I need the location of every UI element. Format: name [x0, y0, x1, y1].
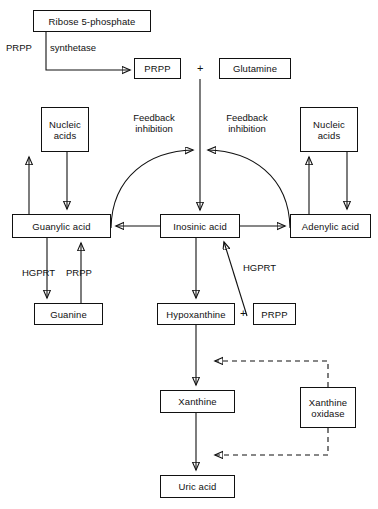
- label-feedback-inhibition-right: Feedback inhibition: [207, 112, 287, 134]
- node-inosinic-acid: Inosinic acid: [160, 214, 240, 238]
- label-hgprt-left: HGPRT: [22, 267, 55, 278]
- plus-sign-mid: +: [240, 308, 246, 319]
- label-hgprt-right: HGPRT: [243, 262, 276, 273]
- node-prpp-mid: PRPP: [253, 303, 296, 325]
- node-glutamine: Glutamine: [219, 58, 291, 79]
- node-uric-acid: Uric acid: [160, 475, 235, 498]
- node-nucleic-acids-left: Nucleic acids: [41, 107, 89, 152]
- node-prpp-top: PRPP: [134, 58, 181, 79]
- dashed-xanthine-oxidase-upper: [215, 361, 328, 387]
- node-hypoxanthine: Hypoxanthine: [157, 303, 235, 325]
- label-prpp-enzyme: PRPP: [6, 42, 32, 53]
- label-feedback-inhibition-left: Feedback inhibition: [115, 112, 193, 134]
- label-prpp-left: PRPP: [66, 267, 92, 278]
- node-xanthine: Xanthine: [160, 390, 235, 413]
- pathway-diagram: Ribose 5-phosphate PRPP + Glutamine PRPP…: [0, 0, 378, 509]
- pathway-connectors: [0, 0, 378, 509]
- node-ribose-5-phosphate: Ribose 5-phosphate: [33, 10, 151, 32]
- node-guanylic-acid: Guanylic acid: [12, 214, 111, 238]
- plus-sign-top: +: [197, 63, 203, 74]
- node-guanine: Guanine: [34, 303, 103, 325]
- node-nucleic-acids-right: Nucleic acids: [300, 107, 358, 152]
- dashed-xanthine-oxidase-lower: [215, 428, 328, 455]
- node-adenylic-acid: Adenylic acid: [290, 214, 371, 238]
- label-synthetase: synthetase: [50, 42, 96, 53]
- node-xanthine-oxidase: Xanthine oxidase: [300, 387, 356, 428]
